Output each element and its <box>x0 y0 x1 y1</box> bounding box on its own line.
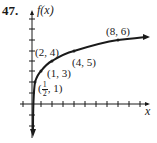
point-label-8-6: (8, 6) <box>106 25 130 37</box>
problem-number: 47. <box>2 3 18 19</box>
point-label-half-1: (12, 1) <box>38 81 62 98</box>
curve-down-arrow-icon <box>30 129 36 137</box>
x-axis-label: x <box>145 104 150 119</box>
graph-canvas <box>0 0 157 143</box>
point-label-1-3: (1, 3) <box>47 67 71 79</box>
y-axis-label: f(x) <box>37 3 54 18</box>
point-label-4-5: (4, 5) <box>72 56 96 68</box>
point-label-2-4: (2, 4) <box>35 46 59 58</box>
paren-close: , 1) <box>48 82 63 94</box>
curve-right-arrow-icon <box>143 34 150 40</box>
y-axis-arrow-icon <box>30 10 34 15</box>
